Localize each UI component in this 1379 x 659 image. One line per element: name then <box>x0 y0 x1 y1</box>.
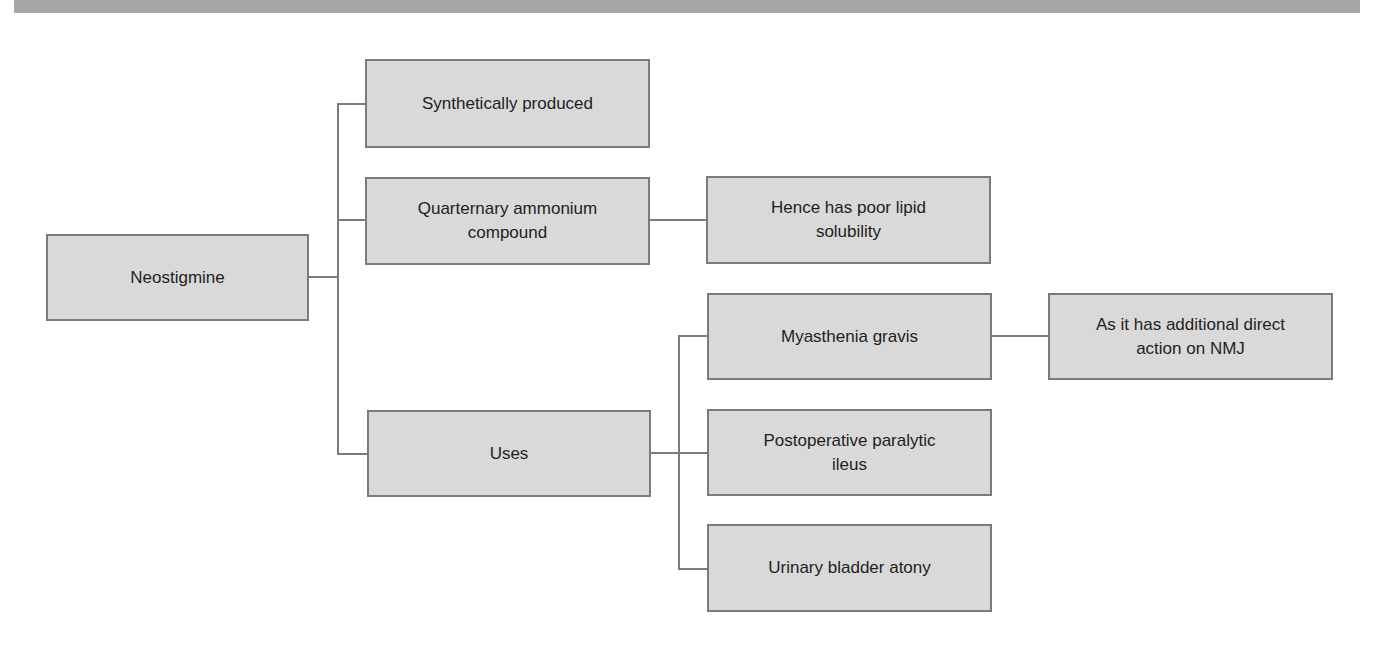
connector-to-bladder <box>678 568 707 570</box>
connector-to-uses <box>337 453 367 455</box>
node-label: Urinary bladder atony <box>768 556 931 580</box>
node-label: Synthetically produced <box>422 92 593 116</box>
node-urinary-bladder-atony: Urinary bladder atony <box>707 524 992 612</box>
connector-myasthenia-to-nmj <box>991 335 1048 337</box>
node-neostigmine: Neostigmine <box>46 234 309 321</box>
node-label: Uses <box>490 442 529 466</box>
node-label: Hence has poor lipid solubility <box>771 196 926 244</box>
node-postoperative-ileus: Postoperative paralytic ileus <box>707 409 992 496</box>
node-quarternary-ammonium: Quarternary ammonium compound <box>365 177 650 265</box>
node-label: Neostigmine <box>130 266 225 290</box>
node-direct-action-nmj: As it has additional direct action on NM… <box>1048 293 1333 380</box>
connector-to-myasthenia <box>678 335 707 337</box>
node-poor-lipid-solubility: Hence has poor lipid solubility <box>706 176 991 264</box>
connector-root-trunk <box>337 103 339 455</box>
node-label: Postoperative paralytic ileus <box>764 429 936 477</box>
connector-to-synthetic <box>337 103 365 105</box>
connector-uses-trunk <box>678 335 680 570</box>
node-uses: Uses <box>367 410 651 497</box>
node-label: Quarternary ammonium compound <box>418 197 598 245</box>
node-myasthenia-gravis: Myasthenia gravis <box>707 293 992 380</box>
node-label: As it has additional direct action on NM… <box>1096 313 1285 361</box>
connector-quarternary-to-lipid <box>650 219 706 221</box>
top-band <box>14 0 1360 13</box>
connector-root-out <box>309 276 338 278</box>
connector-to-quarternary <box>337 219 365 221</box>
node-synthetically-produced: Synthetically produced <box>365 59 650 148</box>
node-label: Myasthenia gravis <box>781 325 918 349</box>
